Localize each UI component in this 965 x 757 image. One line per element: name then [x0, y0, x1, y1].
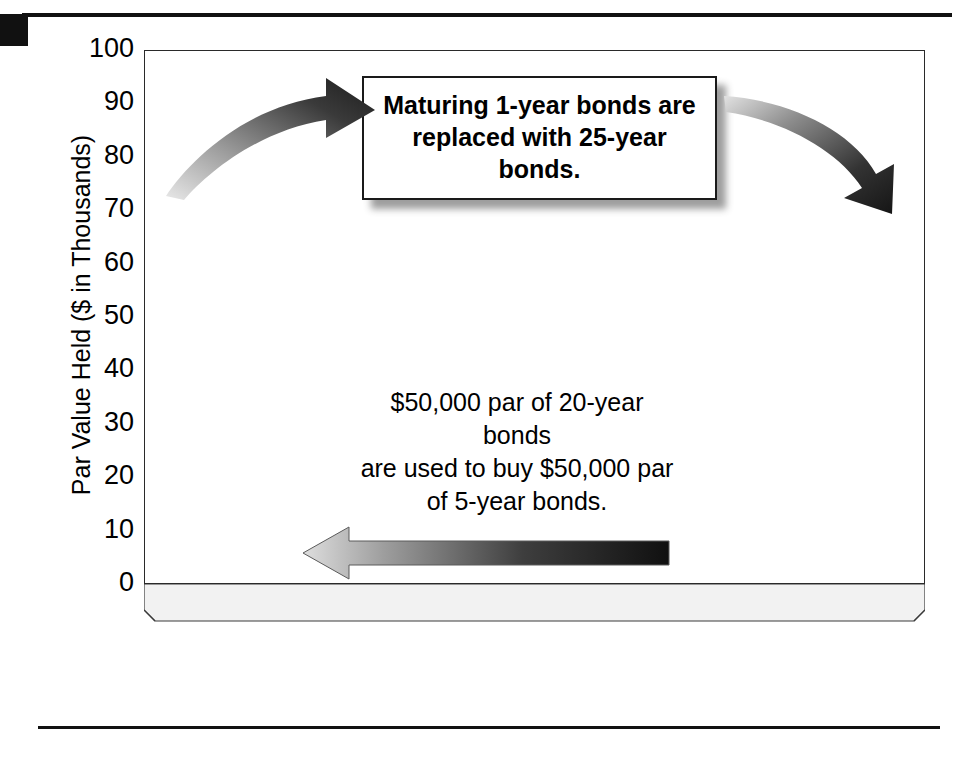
bottom-rule [38, 726, 940, 729]
callout-top-line1: Maturing 1-year bonds are [372, 89, 707, 121]
y-tick-label: 10 [48, 516, 134, 543]
callout-top-line2: replaced with 25-year bonds. [372, 121, 707, 185]
y-tick-label: 80 [48, 142, 134, 169]
callout-maturing-bonds: Maturing 1-year bonds are replaced with … [362, 76, 717, 200]
callout-mid-line1: $50,000 par of 20-year bonds [354, 386, 680, 452]
y-tick-label: 60 [48, 249, 134, 276]
callout-mid-line2: are used to buy $50,000 par [354, 452, 680, 485]
y-tick-label: 100 [48, 35, 134, 62]
y-tick-label: 0 [48, 569, 134, 596]
y-axis-ticks: 1009080706050403020100 [48, 0, 134, 757]
y-tick-label: 20 [48, 462, 134, 489]
callout-mid-line3: of 5-year bonds. [354, 485, 680, 518]
chart-floor [144, 584, 925, 622]
callout-par-swap: $50,000 par of 20-year bonds are used to… [352, 382, 682, 522]
y-tick-label: 50 [48, 302, 134, 329]
y-tick-label: 70 [48, 195, 134, 222]
figure-frame: Par Value Held ($ in Thousands) 10090807… [0, 0, 965, 757]
floor-polygon [144, 584, 925, 622]
y-tick-label: 30 [48, 409, 134, 436]
y-tick-label: 40 [48, 355, 134, 382]
top-rule [22, 13, 952, 17]
corner-tab-marker [0, 14, 28, 46]
y-tick-label: 90 [48, 88, 134, 115]
